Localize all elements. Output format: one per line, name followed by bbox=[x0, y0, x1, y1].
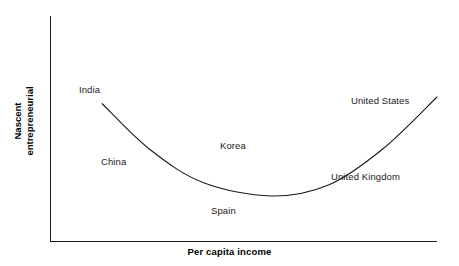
data-label-united-states: United States bbox=[351, 95, 409, 106]
y-axis-title-line1: Nascent bbox=[12, 86, 24, 155]
y-axis-title-line2: entrepreneurial bbox=[24, 86, 36, 155]
data-label-united-kingdom: United Kingdom bbox=[331, 171, 400, 182]
data-label-spain: Spain bbox=[211, 205, 236, 216]
chart-figure: India China Korea Spain United Kingdom U… bbox=[0, 0, 459, 266]
plot-area bbox=[0, 0, 459, 266]
data-label-china: China bbox=[101, 156, 126, 167]
data-label-korea: Korea bbox=[220, 140, 246, 151]
data-label-india: India bbox=[79, 84, 100, 95]
x-axis-title: Per capita income bbox=[0, 246, 459, 257]
